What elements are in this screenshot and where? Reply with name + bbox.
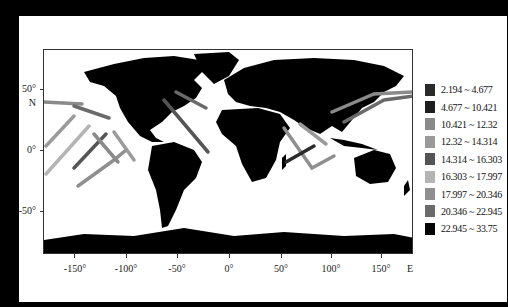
x-tick-mark — [381, 254, 382, 258]
legend-label: 4.677 ~ 10.421 — [441, 102, 497, 113]
y-axis-unit-label: N — [6, 97, 36, 108]
x-axis-unit-label: E — [392, 263, 428, 274]
legend-item: 20.346 ~ 22.945 — [425, 203, 502, 220]
legend-item: 22.945 ~ 33.75 — [425, 220, 502, 237]
y-tick-label-minus50: -50° — [6, 205, 36, 216]
legend-item: 14.314 ~ 16.303 — [425, 151, 502, 168]
legend-label: 20.346 ~ 22.945 — [441, 206, 502, 217]
legend-label: 14.314 ~ 16.303 — [441, 154, 502, 165]
world-map — [43, 49, 413, 254]
south-america-landmass — [148, 142, 202, 228]
x-tick-mark — [229, 254, 230, 258]
legend: 2.194 ~ 4.677 4.677 ~ 10.421 10.421 ~ 12… — [425, 81, 502, 238]
legend-label: 16.303 ~ 17.997 — [441, 171, 502, 182]
legend-item: 2.194 ~ 4.677 — [425, 81, 502, 98]
australia-landmass — [354, 150, 396, 184]
x-tick-label: 0° — [211, 263, 247, 274]
new-zealand-landmass — [404, 180, 410, 196]
legend-item: 12.32 ~ 14.314 — [425, 133, 502, 150]
indonesia-islands — [330, 138, 378, 150]
legend-label: 17.997 ~ 20.346 — [441, 189, 502, 200]
legend-item: 17.997 ~ 20.346 — [425, 185, 502, 202]
legend-swatch — [425, 223, 435, 235]
legend-item: 4.677 ~ 10.421 — [425, 98, 502, 115]
x-tick-label: -100° — [108, 263, 144, 274]
legend-label: 22.945 ~ 33.75 — [441, 223, 497, 234]
y-tick-label-0: 0° — [6, 144, 36, 155]
y-tick-mark-0 — [40, 150, 44, 151]
legend-swatch — [425, 118, 435, 130]
x-tick-mark — [74, 254, 75, 258]
legend-swatch — [425, 171, 435, 183]
legend-item: 10.421 ~ 12.32 — [425, 116, 502, 133]
x-tick-label: -150° — [57, 263, 93, 274]
legend-swatch — [425, 153, 435, 165]
legend-swatch — [425, 188, 435, 200]
x-tick-label: 50° — [263, 263, 299, 274]
x-tick-mark — [177, 254, 178, 258]
legend-item: 16.303 ~ 17.997 — [425, 168, 502, 185]
africa-landmass — [216, 108, 290, 182]
y-tick-mark-50 — [40, 89, 44, 90]
legend-label: 2.194 ~ 4.677 — [441, 84, 493, 95]
legend-label: 12.32 ~ 14.314 — [441, 136, 497, 147]
x-tick-mark — [331, 254, 332, 258]
legend-swatch — [425, 101, 435, 113]
legend-swatch — [425, 136, 435, 148]
legend-swatch — [425, 84, 435, 96]
legend-swatch — [425, 205, 435, 217]
x-tick-label: 100° — [313, 263, 349, 274]
x-tick-mark — [281, 254, 282, 258]
y-tick-label-50: 50° — [6, 83, 36, 94]
y-tick-mark-minus50 — [40, 211, 44, 212]
antarctica-landmass — [44, 228, 413, 254]
x-tick-label: -50° — [159, 263, 195, 274]
x-tick-mark — [126, 254, 127, 258]
map-canvas — [44, 50, 413, 254]
legend-label: 10.421 ~ 12.32 — [441, 119, 497, 130]
